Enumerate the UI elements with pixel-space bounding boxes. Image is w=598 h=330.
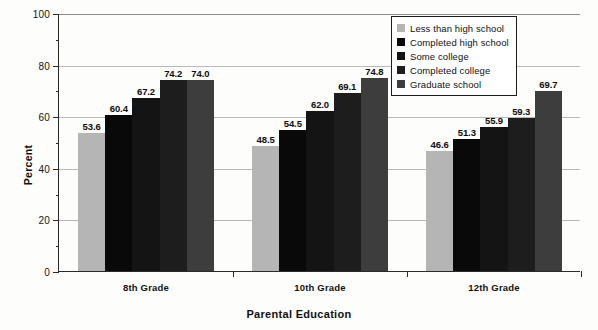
bar-value-label: 60.4: [110, 103, 128, 114]
bar-value-label: 69.1: [338, 81, 356, 92]
bar: [252, 146, 279, 271]
legend-item-label: Some college: [410, 51, 469, 62]
bar-value-label: 46.6: [431, 139, 449, 150]
bar-value-label: 74.2: [164, 68, 182, 79]
gridline-100: [59, 14, 580, 15]
y-tick-80: [53, 66, 59, 67]
y-tick-minor-50: [56, 143, 60, 144]
legend-item-label: Completed high school: [410, 37, 509, 48]
bar: [306, 111, 333, 271]
y-tick-minor-70: [56, 91, 60, 92]
bar: [361, 78, 388, 271]
y-axis-title: Percent: [22, 145, 34, 186]
bar-chart: Percent 0204060801008th Grade53.660.467.…: [0, 0, 598, 330]
x-group-label-3: 12th Grade: [468, 282, 520, 293]
legend-item-label: Less than high school: [410, 23, 504, 34]
bar: [160, 80, 187, 271]
bar-value-label: 59.3: [512, 106, 530, 117]
bar-value-label: 55.9: [485, 115, 503, 126]
x-tick-1: [233, 271, 234, 277]
bar-value-label: 54.5: [284, 118, 302, 129]
legend-swatch-icon: [397, 24, 405, 32]
bar: [480, 127, 507, 271]
x-tick-end: [581, 271, 582, 277]
bar: [453, 139, 480, 271]
y-tick-label-60: 60: [38, 112, 50, 123]
x-tick-2: [407, 271, 408, 277]
bar-value-label: 69.7: [539, 79, 557, 90]
y-tick-20: [53, 220, 59, 221]
bar: [78, 133, 105, 271]
bar-value-label: 53.6: [83, 121, 101, 132]
x-group-label-1: 8th Grade: [123, 282, 169, 293]
legend-item-4[interactable]: Completed college: [397, 63, 509, 77]
legend-swatch-icon: [397, 80, 405, 88]
y-tick-100: [53, 14, 59, 15]
bar: [508, 118, 535, 271]
legend-item-label: Graduate school: [410, 79, 481, 90]
legend-swatch-icon: [397, 52, 405, 60]
y-tick-60: [53, 117, 59, 118]
bar: [535, 91, 562, 271]
bar: [334, 93, 361, 271]
x-axis-title: Parental Education: [0, 308, 598, 320]
y-tick-label-20: 20: [38, 215, 50, 226]
bar-value-label: 48.5: [257, 134, 275, 145]
legend-item-3[interactable]: Some college: [397, 49, 509, 63]
bar: [426, 151, 453, 271]
y-tick-label-100: 100: [33, 9, 50, 20]
y-tick-label-80: 80: [38, 60, 50, 71]
y-tick-0: [53, 272, 59, 273]
y-tick-minor-30: [56, 195, 60, 196]
bar-value-label: 74.8: [365, 66, 383, 77]
legend-item-label: Completed college: [410, 65, 490, 76]
bar: [187, 80, 214, 271]
legend-item-2[interactable]: Completed high school: [397, 35, 509, 49]
legend-item-5[interactable]: Graduate school: [397, 77, 509, 91]
bar-value-label: 67.2: [137, 86, 155, 97]
chart-legend: Less than high schoolCompleted high scho…: [391, 16, 517, 96]
y-tick-label-40: 40: [38, 163, 50, 174]
bar: [279, 130, 306, 271]
bar-value-label: 51.3: [458, 127, 476, 138]
y-tick-minor-90: [56, 40, 60, 41]
x-group-label-2: 10th Grade: [294, 282, 346, 293]
bar-value-label: 74.0: [191, 68, 209, 79]
legend-swatch-icon: [397, 66, 405, 74]
y-tick-40: [53, 169, 59, 170]
legend-item-1[interactable]: Less than high school: [397, 21, 509, 35]
y-tick-minor-10: [56, 246, 60, 247]
bar: [105, 115, 132, 271]
y-tick-label-0: 0: [44, 267, 50, 278]
bar: [132, 98, 159, 271]
bar-value-label: 62.0: [311, 99, 329, 110]
legend-swatch-icon: [397, 38, 405, 46]
